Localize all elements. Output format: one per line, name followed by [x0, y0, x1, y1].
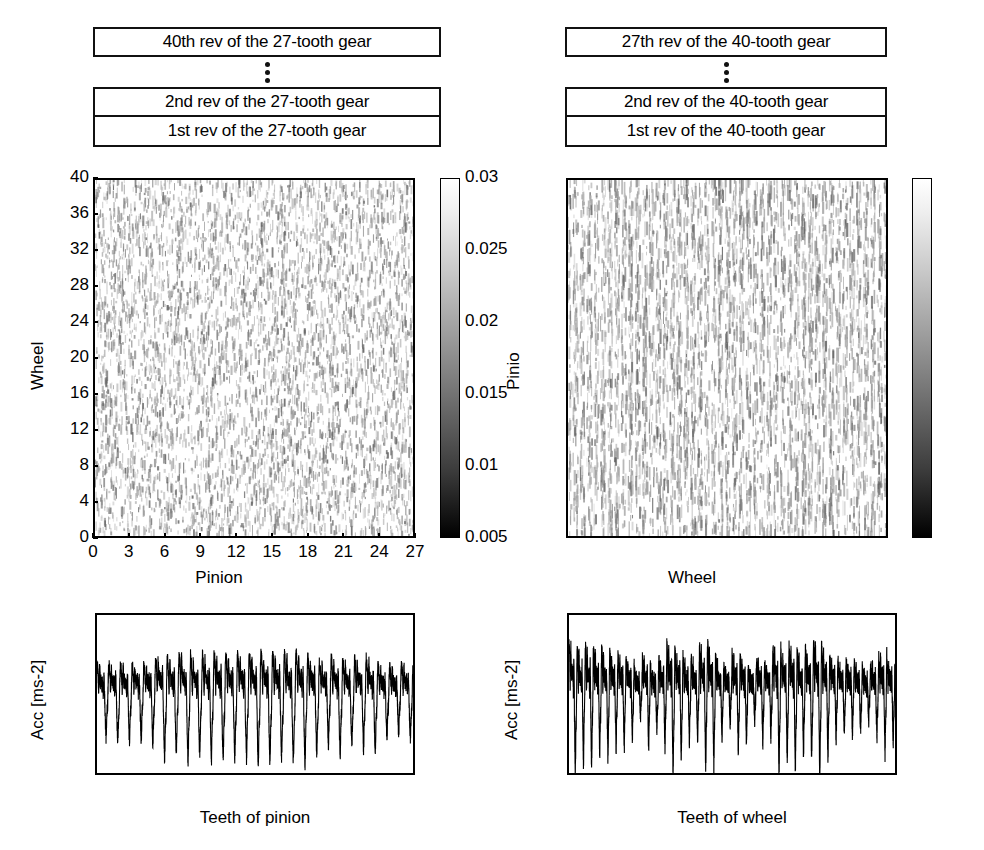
right-colorbar — [912, 178, 932, 538]
xtick-label: 9 — [196, 542, 205, 562]
xtick-label: 3 — [124, 542, 133, 562]
bottom-left-signal-panel: -0.1-0.0500.050.1 0369121518212427 Acc [… — [0, 600, 492, 850]
xtick-mark — [199, 533, 201, 538]
ytick-mark — [93, 321, 98, 323]
ytick-label: 4 — [29, 491, 89, 511]
right-colormap-ylabel: Pinio — [504, 352, 524, 390]
xtick-label: 12 — [227, 542, 246, 562]
xtick-label: 18 — [298, 542, 317, 562]
right-colorbar-gradient — [913, 179, 931, 537]
ytick-label: 8 — [29, 455, 89, 475]
bottom-right-ylabel: Acc [ms-2] — [502, 660, 522, 740]
bottom-left-signal-axes — [95, 613, 415, 775]
xtick-mark — [235, 533, 237, 538]
xtick-mark — [271, 533, 273, 538]
xtick-label: 15 — [262, 542, 281, 562]
xtick-label: 24 — [370, 542, 389, 562]
xtick-label: 6 — [160, 542, 169, 562]
xtick-label: 0 — [88, 542, 97, 562]
left-colorbar-gradient — [441, 179, 459, 537]
xtick-mark — [164, 533, 166, 538]
right-colormap-xlabel: Wheel — [668, 568, 716, 588]
ytick-mark — [93, 465, 98, 467]
ytick-mark — [93, 213, 98, 215]
bottom-left-ylabel: Acc [ms-2] — [28, 660, 48, 740]
xtick-mark — [342, 533, 344, 538]
xtick-label: 27 — [406, 542, 425, 562]
ytick-mark — [93, 357, 98, 359]
left-colorbar — [440, 178, 460, 538]
xtick-mark — [414, 533, 416, 538]
ytick-mark — [93, 177, 98, 179]
ytick-label: 24 — [29, 311, 89, 331]
bottom-left-xlabel: Teeth of pinion — [200, 808, 311, 828]
ytick-mark — [93, 249, 98, 251]
ytick-label: 28 — [29, 275, 89, 295]
left-colormap-xlabel: Pinion — [195, 568, 242, 588]
right-colormap-axes — [566, 178, 888, 538]
ytick-label: 0 — [29, 527, 89, 547]
ytick-mark — [93, 285, 98, 287]
right-colormap-panel: 0369121518212427 0481216202428323640 Pin… — [492, 0, 984, 600]
xtick-mark — [307, 533, 309, 538]
right-colormap-image — [568, 180, 886, 536]
bottom-right-signal-panel: -0.1-0.0500.050.1 0481216202428323640 Ac… — [492, 600, 984, 850]
ytick-label: 36 — [29, 203, 89, 223]
xtick-label: 21 — [334, 542, 353, 562]
ytick-label: 40 — [29, 167, 89, 187]
xtick-mark — [378, 533, 380, 538]
ytick-mark — [93, 429, 98, 431]
bottom-right-signal-axes — [567, 613, 897, 775]
ytick-mark — [93, 501, 98, 503]
xtick-mark — [128, 533, 130, 538]
ytick-label: 12 — [29, 419, 89, 439]
left-colormap-image — [95, 180, 413, 536]
ytick-label: 32 — [29, 239, 89, 259]
bottom-left-signal-trace — [97, 615, 413, 773]
xtick-mark — [92, 533, 94, 538]
ytick-mark — [93, 393, 98, 395]
left-colormap-axes — [93, 178, 415, 538]
bottom-right-xlabel: Teeth of wheel — [677, 808, 787, 828]
left-colormap-ylabel: Wheel — [28, 342, 48, 390]
left-colormap-panel: 0481216202428323640 0369121518212427 Whe… — [0, 0, 492, 600]
figure-root: 40th rev of the 27-tooth gear 2nd rev of… — [0, 0, 984, 850]
bottom-right-signal-trace — [569, 615, 895, 773]
